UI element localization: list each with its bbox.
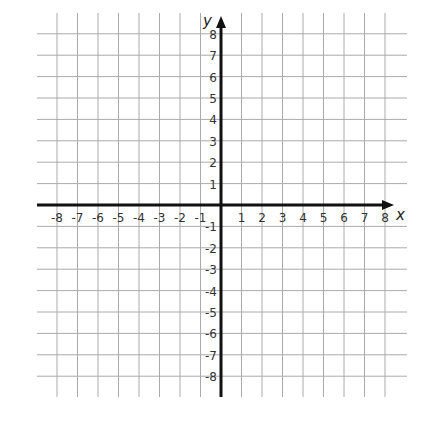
x-tick-label: -8 bbox=[51, 211, 63, 225]
x-tick-label: 6 bbox=[340, 211, 348, 225]
x-tick-label: 5 bbox=[320, 211, 328, 225]
y-tick-label: -3 bbox=[205, 263, 217, 277]
y-tick-label: 2 bbox=[209, 156, 217, 170]
y-tick-label: -1 bbox=[205, 220, 217, 234]
y-tick-label: 4 bbox=[209, 113, 217, 127]
y-tick-label: -7 bbox=[205, 349, 217, 363]
x-tick-label: -5 bbox=[113, 211, 125, 225]
y-tick-label: 6 bbox=[209, 71, 217, 85]
y-tick-label: 7 bbox=[209, 49, 217, 63]
x-tick-label: 8 bbox=[381, 211, 389, 225]
y-tick-label: 5 bbox=[209, 92, 217, 106]
x-tick-label: -6 bbox=[92, 211, 104, 225]
x-tick-label: 4 bbox=[299, 211, 307, 225]
x-tick-label: 7 bbox=[361, 211, 369, 225]
x-tick-label: -4 bbox=[133, 211, 145, 225]
y-axis-label: y bbox=[202, 12, 213, 30]
x-tick-label: -2 bbox=[174, 211, 186, 225]
x-tick-label: 2 bbox=[258, 211, 266, 225]
coordinate-plane: -8-7-6-5-4-3-2-11234567887654321-1-2-3-4… bbox=[0, 0, 422, 427]
y-tick-label: 3 bbox=[209, 135, 217, 149]
y-tick-label: -8 bbox=[205, 370, 217, 384]
x-axis-label: x bbox=[395, 206, 405, 224]
y-tick-label: -2 bbox=[205, 242, 217, 256]
x-tick-label: 3 bbox=[279, 211, 287, 225]
y-axis-arrow-icon bbox=[216, 16, 226, 28]
y-tick-label: -4 bbox=[205, 285, 217, 299]
y-tick-label: -5 bbox=[205, 306, 217, 320]
x-axis-arrow-icon bbox=[382, 200, 394, 210]
y-tick-label: 1 bbox=[209, 178, 217, 192]
x-tick-label: 1 bbox=[238, 211, 246, 225]
x-tick-label: -3 bbox=[154, 211, 166, 225]
y-tick-label: -6 bbox=[205, 327, 217, 341]
x-tick-label: -7 bbox=[72, 211, 84, 225]
